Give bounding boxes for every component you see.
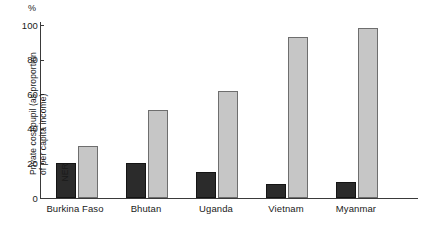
bar-private-cost-uganda — [196, 172, 216, 198]
series-label-ner: NER — [61, 163, 71, 181]
bar-ner-uganda — [218, 91, 238, 198]
y-tick-label-100: 100 — [4, 21, 38, 31]
series-label-private-cost: Private cost/pupil (as proportion of per… — [29, 52, 48, 175]
x-tick-label-myanmar: Myanmar — [308, 203, 404, 214]
y-tick-label-0: 0 — [4, 194, 38, 204]
bar-private-cost-vietnam — [266, 184, 286, 198]
bar-ner-myanmar — [358, 28, 378, 198]
bar-ner-vietnam — [288, 37, 308, 198]
bar-ner-bhutan — [148, 110, 168, 198]
bar-private-cost-myanmar — [336, 182, 356, 198]
bar-private-cost-bhutan — [126, 163, 146, 198]
x-axis-line — [40, 198, 418, 199]
bar-chart: % 100 80 60 40 20 0 — [0, 0, 423, 231]
bar-ner-burkina-faso — [78, 146, 98, 198]
plot-area — [40, 20, 418, 198]
